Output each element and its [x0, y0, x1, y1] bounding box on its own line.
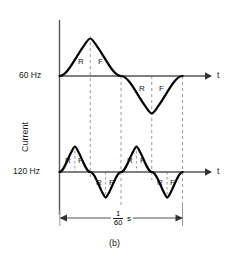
marker-60hz-rise-2: R	[139, 85, 145, 93]
marker-120hz-rise-2: R	[96, 179, 102, 187]
period-arrow-right	[176, 215, 184, 222]
label-60hz: 60 Hz	[19, 71, 41, 80]
axis-label-t-120hz: t	[217, 167, 219, 176]
figure-caption: (b)	[109, 239, 120, 248]
axis-label-t-60hz: t	[217, 71, 219, 80]
marker-120hz-fall-2: F	[109, 179, 114, 187]
time-axis-60hz-arrowhead	[205, 72, 212, 79]
figure-container: 60 Hz 120 Hz Current t t R F R F R F R F…	[0, 0, 232, 256]
marker-120hz-fall-4: F	[170, 179, 175, 187]
period-fraction: 1 60	[113, 210, 123, 227]
period-unit: s	[127, 214, 131, 223]
marker-120hz-rise-3: R	[127, 157, 133, 165]
marker-120hz-fall-1: F	[78, 157, 83, 165]
period-denominator: 60	[113, 219, 123, 227]
period-arrow-left	[60, 215, 68, 222]
marker-60hz-fall-2: F	[159, 85, 164, 93]
marker-120hz-rise-1: R	[65, 157, 71, 165]
marker-120hz-rise-4: R	[157, 179, 163, 187]
marker-60hz-fall-1: F	[98, 58, 103, 66]
label-120hz: 120 Hz	[13, 167, 40, 176]
marker-120hz-fall-3: F	[140, 157, 145, 165]
axis-title-current: Current	[21, 122, 30, 152]
marker-60hz-rise-1: R	[78, 58, 84, 66]
dashed-guide-lines	[90, 36, 182, 212]
time-axis-120hz-arrowhead	[205, 168, 212, 175]
